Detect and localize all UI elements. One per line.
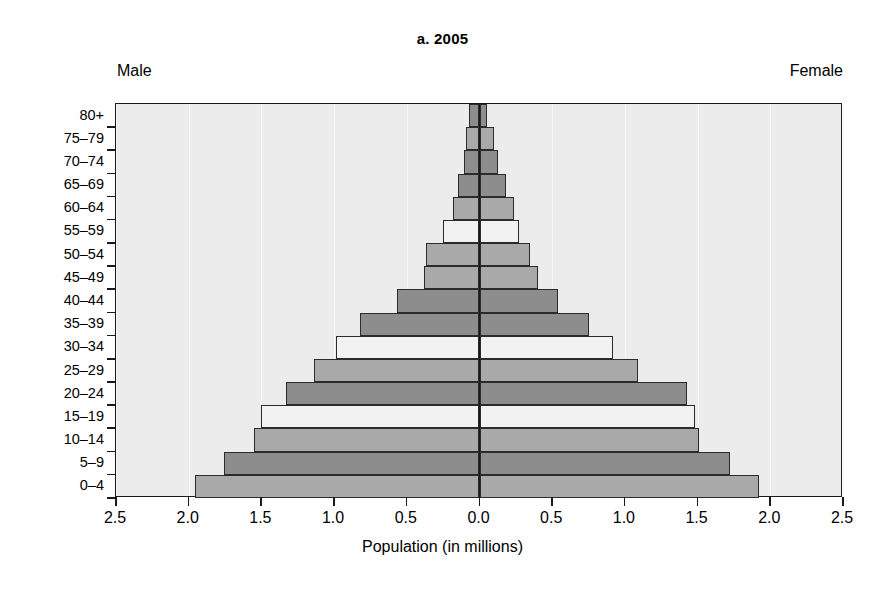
y-axis-tick-label: 15–19 (8, 409, 104, 424)
female-bar (480, 452, 730, 475)
y-axis-tick (107, 312, 116, 314)
female-bar (480, 428, 700, 451)
female-bar (480, 359, 638, 382)
pyramid-row (116, 313, 841, 336)
x-axis-tick (115, 497, 117, 506)
y-axis-tick-label: 30–34 (8, 339, 104, 354)
x-axis-tick-label: 1.0 (303, 509, 363, 527)
pyramid-row (116, 289, 841, 312)
female-bar (480, 313, 589, 336)
y-axis-tick (107, 242, 116, 244)
y-axis-tick (107, 196, 116, 198)
y-axis-tick-label: 10–14 (8, 432, 104, 447)
y-axis-tick (107, 335, 116, 337)
y-axis-tick-label: 45–49 (8, 270, 104, 285)
population-pyramid-figure: a. 2005 Male Female 80+75–7970–7465–6960… (0, 0, 885, 590)
x-axis-tick (479, 497, 481, 506)
x-axis-title: Population (in millions) (0, 538, 885, 556)
female-bar (480, 475, 759, 498)
pyramid-row (116, 359, 841, 382)
y-axis-tick-label: 75–79 (8, 131, 104, 146)
y-axis-tick-label: 5–9 (8, 455, 104, 470)
female-bar (480, 336, 614, 359)
male-bar (254, 428, 479, 451)
pyramid-row (116, 336, 841, 359)
x-axis-tick-label: 2.0 (739, 509, 799, 527)
male-bar (453, 197, 479, 220)
gridline (843, 104, 844, 496)
x-axis-tick-label: 2.5 (812, 509, 872, 527)
x-axis-tick-label: 0.5 (376, 509, 436, 527)
male-axis-label: Male (117, 62, 152, 80)
x-axis-tick-label: 1.5 (230, 509, 290, 527)
female-axis-label: Female (790, 62, 843, 80)
male-bar (424, 266, 479, 289)
pyramid-row (116, 266, 841, 289)
pyramid-row (116, 197, 841, 220)
y-axis-tick (107, 265, 116, 267)
y-axis-tick (107, 126, 116, 128)
y-axis-tick-label: 65–69 (8, 177, 104, 192)
y-axis-tick-label: 0–4 (8, 478, 104, 493)
y-axis-tick-label: 25–29 (8, 363, 104, 378)
pyramid-row (116, 452, 841, 475)
y-axis-labels: 80+75–7970–7465–6960–6455–5950–5445–4940… (0, 103, 104, 497)
y-axis-tick (107, 381, 116, 383)
y-axis-tick (107, 288, 116, 290)
x-axis-tick-label: 1.0 (594, 509, 654, 527)
y-axis-tick-label: 20–24 (8, 386, 104, 401)
pyramid-row (116, 127, 841, 150)
y-axis-tick (107, 427, 116, 429)
pyramid-row (116, 150, 841, 173)
female-bar (480, 220, 519, 243)
male-bar (458, 174, 480, 197)
male-bar (397, 289, 480, 312)
male-bar (314, 359, 480, 382)
x-axis-tick-label: 1.5 (667, 509, 727, 527)
pyramid-row (116, 475, 841, 498)
y-axis-tick-label: 35–39 (8, 316, 104, 331)
y-axis-tick-label: 60–64 (8, 200, 104, 215)
male-bar (286, 382, 479, 405)
x-axis-tick-label: 2.5 (85, 509, 145, 527)
y-axis-tick (107, 451, 116, 453)
x-axis-tick (260, 497, 262, 506)
x-axis-tick (697, 497, 699, 506)
male-bar (224, 452, 480, 475)
female-bar (480, 150, 499, 173)
pyramid-row (116, 428, 841, 451)
y-axis-tick-label: 50–54 (8, 247, 104, 262)
male-bar (426, 243, 480, 266)
y-axis-tick-label: 40–44 (8, 293, 104, 308)
male-bar (261, 405, 479, 428)
pyramid-row (116, 104, 841, 127)
x-axis-tick-label: 0.0 (449, 509, 509, 527)
male-bar (466, 127, 479, 150)
y-axis-tick-label: 80+ (8, 108, 104, 123)
pyramid-row (116, 174, 841, 197)
y-axis-tick (107, 404, 116, 406)
x-axis-tick (624, 497, 626, 506)
female-bar (480, 266, 538, 289)
y-axis-tick (107, 358, 116, 360)
y-axis-tick (107, 219, 116, 221)
x-axis-tick (188, 497, 190, 506)
female-bar (480, 289, 559, 312)
x-axis-tick (406, 497, 408, 506)
male-bar (195, 475, 480, 498)
y-axis-tick-label: 55–59 (8, 223, 104, 238)
bar-rows (116, 104, 841, 496)
pyramid-row (116, 405, 841, 428)
pyramid-row (116, 382, 841, 405)
male-bar (360, 313, 479, 336)
x-axis-tick (551, 497, 553, 506)
male-bar (469, 104, 479, 127)
figure-title: a. 2005 (0, 30, 885, 47)
pyramid-row (116, 243, 841, 266)
x-axis-tick-label: 0.5 (521, 509, 581, 527)
female-bar (480, 243, 531, 266)
y-axis-tick-label: 70–74 (8, 154, 104, 169)
x-axis-tick (333, 497, 335, 506)
y-axis-tick (107, 149, 116, 151)
x-axis-tick-label: 2.0 (158, 509, 218, 527)
